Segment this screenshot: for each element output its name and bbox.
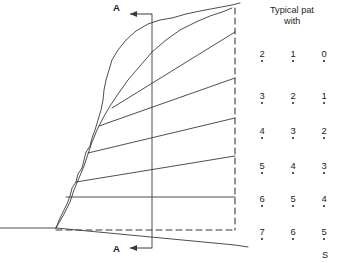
survey-point-label: 6 (253, 194, 271, 203)
survey-point-dot-icon (323, 137, 326, 140)
survey-point-label: 1 (284, 49, 302, 58)
survey-point-label: 4 (284, 161, 302, 170)
section-label-top: A (113, 2, 120, 13)
caption-line-2: with (284, 16, 300, 27)
section-marker-bottom (130, 245, 152, 251)
survey-point-4-r4c2: 4 (315, 194, 333, 207)
survey-point-dot-icon (323, 205, 326, 208)
survey-point-label: 4 (315, 194, 333, 203)
survey-point-3-r2c1: 3 (284, 126, 302, 139)
survey-point-dot-icon (292, 205, 295, 208)
ray-line-4 (76, 156, 235, 182)
survey-point-dot-icon (261, 60, 264, 63)
survey-point-dot-icon (292, 172, 295, 175)
survey-point-6-r4c0: 6 (253, 194, 271, 207)
survey-point-2-r1c1: 2 (284, 91, 302, 104)
survey-point-dot-icon (323, 172, 326, 175)
survey-point-dot-icon (261, 172, 264, 175)
survey-point-label: 0 (315, 49, 333, 58)
survey-point-label: 5 (315, 227, 333, 236)
caption-footer-partial: S (322, 250, 328, 260)
ground-surface-profile (56, 3, 240, 228)
survey-point-dot-icon (292, 60, 295, 63)
ray-line-3 (88, 118, 235, 153)
survey-point-dot-icon (261, 102, 264, 105)
survey-point-dot-icon (323, 102, 326, 105)
survey-point-dot-icon (261, 238, 264, 241)
survey-point-label: 2 (284, 91, 302, 100)
caption-line-1: Typical pat (270, 5, 314, 16)
survey-point-dot-icon (292, 137, 295, 140)
survey-point-label: 6 (284, 227, 302, 236)
survey-point-0-r0c2: 0 (315, 49, 333, 62)
survey-point-2-r0c0: 2 (253, 49, 271, 62)
survey-point-2-r2c2: 2 (315, 126, 333, 139)
survey-point-label: 7 (253, 227, 271, 236)
survey-point-3-r1c0: 3 (253, 91, 271, 104)
survey-point-label: 5 (253, 161, 271, 170)
survey-point-dot-icon (261, 205, 264, 208)
diagram-root: A A Typical pat with S 21032143254365476… (0, 0, 340, 263)
survey-point-1-r1c2: 1 (315, 91, 333, 104)
section-marker-top (130, 11, 152, 17)
survey-point-label: 1 (315, 91, 333, 100)
survey-point-5-r3c0: 5 (253, 161, 271, 174)
slope-face-lower (56, 8, 232, 228)
survey-point-dot-icon (323, 238, 326, 241)
survey-point-label: 3 (315, 161, 333, 170)
survey-point-5-r4c1: 5 (284, 194, 302, 207)
survey-point-dot-icon (323, 60, 326, 63)
survey-point-dot-icon (261, 137, 264, 140)
ray-line-2 (99, 78, 235, 126)
survey-point-4-r3c1: 4 (284, 161, 302, 174)
survey-point-7-r5c0: 7 (253, 227, 271, 240)
survey-point-dot-icon (292, 238, 295, 241)
survey-point-dot-icon (292, 102, 295, 105)
survey-point-label: 3 (284, 126, 302, 135)
survey-point-4-r2c0: 4 (253, 126, 271, 139)
survey-point-label: 4 (253, 126, 271, 135)
survey-point-label: 5 (284, 194, 302, 203)
survey-point-1-r0c1: 1 (284, 49, 302, 62)
survey-point-3-r3c2: 3 (315, 161, 333, 174)
ray-line-1 (112, 32, 235, 108)
survey-point-5-r5c2: 5 (315, 227, 333, 240)
survey-point-6-r5c1: 6 (284, 227, 302, 240)
survey-point-label: 2 (315, 126, 333, 135)
generated-line-layer (0, 3, 248, 248)
survey-point-label: 2 (253, 49, 271, 58)
survey-point-label: 3 (253, 91, 271, 100)
section-label-bottom: A (113, 243, 120, 254)
